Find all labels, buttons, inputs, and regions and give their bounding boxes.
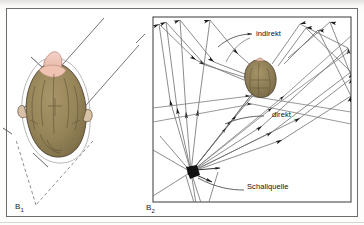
figure-container: indirekt direkt Schallquelle B1 B2 [0, 0, 364, 225]
label-indirekt: indirekt [256, 29, 281, 38]
b1-line-3 [136, 34, 145, 43]
b1-tick-1 [31, 57, 43, 68]
label-schallquelle: Schallquelle [247, 182, 289, 191]
b1-tick-4 [3, 128, 12, 134]
panel-b1 [3, 18, 145, 205]
b2-head-shape [245, 60, 277, 98]
caption-b2: B2 [146, 203, 155, 214]
caption-b1: B1 [15, 202, 24, 213]
figure-artwork [0, 0, 364, 225]
b1-head-illustration [18, 52, 92, 163]
caption-b1-index: 1 [21, 207, 25, 213]
b1-tick-3 [33, 153, 48, 167]
b2-room-frame [153, 17, 351, 202]
label-direkt: direkt [272, 110, 291, 119]
caption-b2-index: 2 [152, 208, 156, 214]
